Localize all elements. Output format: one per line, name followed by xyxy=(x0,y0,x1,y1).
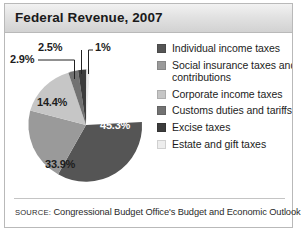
source-label: SOURCE: xyxy=(15,208,51,217)
legend-swatch-icon xyxy=(157,90,166,99)
legend-item-estate-and-gift-taxes[interactable]: Estate and gift taxes xyxy=(157,138,292,150)
legend-item-customs-duties-and-tariffs[interactable]: Customs duties and tariffs xyxy=(157,104,292,116)
legend-item-label: Customs duties and tariffs xyxy=(172,104,292,116)
page-title: Federal Revenue, 2007 xyxy=(15,10,163,25)
pie-label-excise-taxes: 2.5% xyxy=(38,41,62,53)
legend-item-excise-taxes[interactable]: Excise taxes xyxy=(157,121,292,133)
legend-swatch-icon xyxy=(157,123,166,132)
source-note: SOURCE: Congressional Budget Office's Bu… xyxy=(15,206,287,219)
legend-item-label: Estate and gift taxes xyxy=(172,138,266,150)
legend-swatch-icon xyxy=(157,44,166,53)
pie-chart: 45.3% 33.9% 14.4% 2.9% 2.5% 1% xyxy=(5,34,155,197)
legend-item-social-insurance-taxes[interactable]: Social insurance taxes and contributions xyxy=(157,59,292,83)
pie-label-corporate-income-taxes: 14.4% xyxy=(37,96,67,108)
pie-label-estate-and-gift-taxes: 1% xyxy=(95,41,111,53)
legend-swatch-icon xyxy=(157,61,166,70)
legend-swatch-icon xyxy=(157,140,166,149)
figure-title-bar: Federal Revenue, 2007 xyxy=(5,4,292,33)
legend-item-label: Excise taxes xyxy=(172,121,230,133)
pie-label-social-insurance-taxes: 33.9% xyxy=(45,158,75,170)
legend-item-corporate-income-taxes[interactable]: Corporate income taxes xyxy=(157,88,292,100)
legend-item-individual-income-taxes[interactable]: Individual income taxes xyxy=(157,42,292,54)
figure-panel: Federal Revenue, 2007 xyxy=(4,3,293,228)
pie-label-customs-duties-and-tariffs: 2.9% xyxy=(10,53,34,65)
legend-item-label: Corporate income taxes xyxy=(172,88,282,100)
footer-divider xyxy=(14,198,285,199)
source-text: Congressional Budget Office's Budget and… xyxy=(53,207,299,217)
pie-slice-estate-and-gift-taxes[interactable] xyxy=(86,70,90,125)
legend-item-label: Social insurance taxes and contributions xyxy=(172,59,292,83)
legend-swatch-icon xyxy=(157,106,166,115)
chart-plot-area: 45.3% 33.9% 14.4% 2.9% 2.5% 1% Individua… xyxy=(5,34,292,197)
chart-legend: Individual income taxes Social insurance… xyxy=(157,42,292,154)
legend-item-label: Individual income taxes xyxy=(172,42,280,54)
pie-label-individual-income-taxes: 45.3% xyxy=(100,119,130,131)
